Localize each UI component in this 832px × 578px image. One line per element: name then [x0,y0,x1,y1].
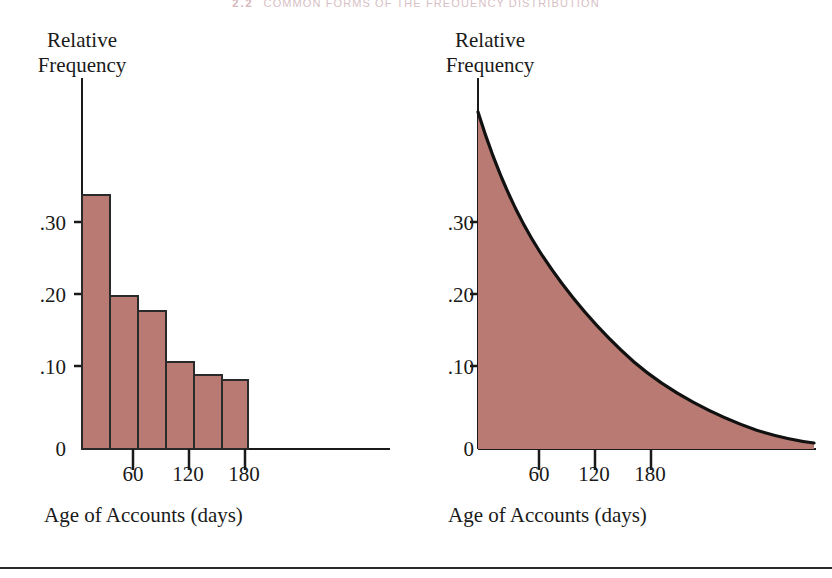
chart-left-bar-5 [194,375,222,449]
chart-left-plot-svg [0,0,416,545]
chart-left-histogram: Relative Frequency .30 .20 .10 0 60 120 … [0,0,416,545]
chart-right-curve: Relative Frequency .30 .20 .10 0 60 120 … [416,0,832,545]
chart-left-bar-2 [110,296,138,449]
chart-left-bar-6 [222,380,248,449]
chart-left-bar-1 [82,195,110,449]
chart-left-bar-3 [138,311,166,449]
chart-right-area-fill [478,112,814,449]
chart-left-bar-4 [166,362,194,449]
chart-left-bars [82,195,248,449]
page-bottom-rule [0,567,832,569]
chart-right-plot-svg [416,0,832,545]
